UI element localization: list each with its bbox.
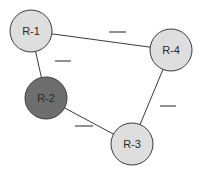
node-label: R-2 — [37, 92, 55, 104]
node-r-4: R-4 — [150, 29, 192, 71]
nodes-layer: R-1R-4R-2R-3 — [10, 10, 192, 165]
node-r-1: R-1 — [10, 10, 52, 52]
node-label: R-1 — [22, 25, 40, 37]
node-r-3: R-3 — [111, 123, 153, 165]
node-r-2: R-2 — [25, 77, 67, 119]
node-label: R-3 — [123, 138, 141, 150]
node-label: R-4 — [162, 44, 180, 56]
network-diagram: R-1R-4R-2R-3 — [0, 0, 205, 173]
